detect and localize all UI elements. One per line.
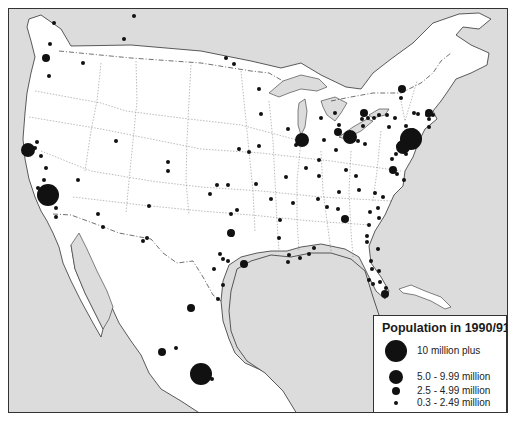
city-marker[interactable] <box>360 109 368 117</box>
city-marker[interactable] <box>229 212 233 216</box>
city-marker[interactable] <box>371 282 375 286</box>
city-marker[interactable] <box>237 147 241 151</box>
city-marker[interactable] <box>333 111 337 115</box>
city-marker[interactable] <box>344 168 348 172</box>
city-marker[interactable] <box>230 233 234 237</box>
city-marker[interactable] <box>363 142 367 146</box>
city-marker[interactable] <box>427 117 431 121</box>
city-marker[interactable] <box>235 208 239 212</box>
city-marker[interactable] <box>47 74 51 78</box>
city-marker[interactable] <box>240 260 248 268</box>
city-marker[interactable] <box>187 304 195 312</box>
city-marker[interactable] <box>384 286 388 290</box>
city-marker[interactable] <box>114 139 118 143</box>
city-marker[interactable] <box>132 14 136 18</box>
city-marker[interactable] <box>277 236 281 240</box>
city-marker[interactable] <box>369 259 373 263</box>
city-marker[interactable] <box>317 174 321 178</box>
city-marker[interactable] <box>325 205 329 209</box>
city-marker[interactable] <box>210 377 214 381</box>
city-marker[interactable] <box>54 215 58 219</box>
city-marker[interactable] <box>269 197 273 201</box>
city-marker[interactable] <box>395 172 399 176</box>
city-marker[interactable] <box>174 346 178 350</box>
city-marker[interactable] <box>286 260 290 264</box>
city-marker[interactable] <box>387 125 391 129</box>
city-marker[interactable] <box>286 127 290 131</box>
city-marker[interactable] <box>377 269 381 273</box>
city-marker[interactable] <box>247 150 251 154</box>
city-marker[interactable] <box>399 96 403 100</box>
city-marker[interactable] <box>212 267 216 271</box>
city-marker[interactable] <box>216 297 220 301</box>
city-marker[interactable] <box>365 234 369 238</box>
city-marker[interactable] <box>394 152 398 156</box>
city-marker[interactable] <box>208 192 212 196</box>
city-marker[interactable] <box>312 246 316 250</box>
city-marker[interactable] <box>141 239 145 243</box>
city-marker[interactable] <box>147 204 151 208</box>
city-marker[interactable] <box>381 195 385 199</box>
city-marker[interactable] <box>366 116 370 120</box>
city-marker[interactable] <box>21 143 35 157</box>
city-marker[interactable] <box>378 280 382 284</box>
city-marker[interactable] <box>322 138 326 142</box>
city-marker[interactable] <box>232 62 236 66</box>
city-marker[interactable] <box>287 253 291 257</box>
city-marker[interactable] <box>307 252 311 256</box>
city-marker[interactable] <box>372 116 376 120</box>
city-marker[interactable] <box>48 42 52 46</box>
city-marker[interactable] <box>158 348 166 356</box>
city-marker[interactable] <box>221 283 225 287</box>
city-marker[interactable] <box>257 87 261 91</box>
city-marker[interactable] <box>254 182 258 186</box>
city-marker[interactable] <box>42 54 50 62</box>
city-marker[interactable] <box>226 183 230 187</box>
city-marker[interactable] <box>35 140 39 144</box>
city-marker[interactable] <box>361 124 365 128</box>
city-marker[interactable] <box>166 160 170 164</box>
city-marker[interactable] <box>122 37 126 41</box>
city-marker[interactable] <box>37 184 59 206</box>
city-marker[interactable] <box>304 166 308 170</box>
city-marker[interactable] <box>39 154 43 158</box>
city-marker[interactable] <box>218 252 222 256</box>
city-marker[interactable] <box>33 146 37 150</box>
city-marker[interactable] <box>376 247 380 251</box>
city-marker[interactable] <box>341 215 349 223</box>
city-marker[interactable] <box>295 133 309 147</box>
city-marker[interactable] <box>166 169 170 173</box>
city-marker[interactable] <box>398 85 406 93</box>
city-marker[interactable] <box>381 290 389 298</box>
city-marker[interactable] <box>365 240 369 244</box>
city-marker[interactable] <box>221 257 225 261</box>
city-marker[interactable] <box>259 112 263 116</box>
city-marker[interactable] <box>404 124 408 128</box>
city-marker[interactable] <box>337 123 341 127</box>
city-marker[interactable] <box>284 175 288 179</box>
city-marker[interactable] <box>393 116 397 120</box>
city-marker[interactable] <box>360 117 364 121</box>
city-marker[interactable] <box>278 218 282 222</box>
city-marker[interactable] <box>334 148 338 152</box>
city-marker[interactable] <box>367 223 371 227</box>
city-marker[interactable] <box>354 174 358 178</box>
city-marker[interactable] <box>52 21 56 25</box>
city-marker[interactable] <box>226 259 230 263</box>
city-marker[interactable] <box>427 125 431 129</box>
city-marker[interactable] <box>336 207 340 211</box>
city-marker[interactable] <box>42 178 46 182</box>
city-marker[interactable] <box>396 144 400 148</box>
city-marker[interactable] <box>316 197 320 201</box>
city-marker[interactable] <box>385 113 389 117</box>
city-marker[interactable] <box>337 190 341 194</box>
city-marker[interactable] <box>373 191 377 195</box>
city-marker[interactable] <box>356 139 360 143</box>
city-marker[interactable] <box>76 178 80 182</box>
city-marker[interactable] <box>54 206 58 210</box>
city-marker[interactable] <box>377 216 381 220</box>
city-marker[interactable] <box>402 178 406 182</box>
city-marker[interactable] <box>190 363 212 385</box>
city-marker[interactable] <box>370 267 374 271</box>
city-marker[interactable] <box>317 158 321 162</box>
